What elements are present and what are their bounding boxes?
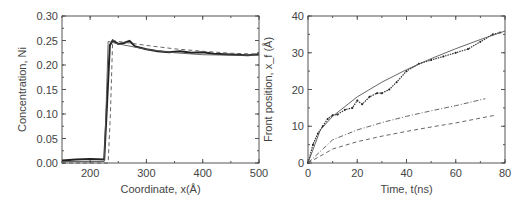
- x-tick-label: 400: [194, 167, 212, 179]
- concentration-profile-chart: 2003004005000.000.050.100.150.200.250.30…: [16, 10, 268, 195]
- y-tick-label: 0.00: [37, 157, 58, 169]
- series-line: [308, 99, 485, 163]
- y-tick-label: 0.15: [37, 84, 58, 96]
- series-line: [308, 31, 505, 163]
- series-line: [62, 41, 259, 164]
- plot-frame: [308, 16, 505, 163]
- x-axis-label: Time, t(ns): [380, 183, 432, 195]
- y-tick-label: 10: [292, 120, 304, 132]
- y-axis-label: Concentration, Ni: [16, 47, 28, 132]
- y-tick-label: 0.20: [37, 59, 58, 71]
- series-line: [308, 33, 500, 163]
- y-tick-label: 30: [292, 47, 304, 59]
- y-tick-label: 40: [292, 10, 304, 22]
- x-tick-label: 300: [137, 167, 155, 179]
- plot-frame: [62, 16, 259, 163]
- y-tick-label: 0.05: [37, 133, 58, 145]
- x-tick-label: 20: [351, 167, 363, 179]
- y-tick-label: 0.25: [37, 35, 58, 47]
- series-line: [62, 41, 259, 161]
- y-tick-label: 0.10: [37, 108, 58, 120]
- y-tick-label: 20: [292, 84, 304, 96]
- series-line: [308, 115, 495, 163]
- x-tick-label: 200: [81, 167, 99, 179]
- x-tick-label: 40: [400, 167, 412, 179]
- y-tick-label: 0: [298, 157, 304, 169]
- figure: 2003004005000.000.050.100.150.200.250.30…: [0, 0, 529, 201]
- x-tick-label: 500: [250, 167, 268, 179]
- series-line: [62, 41, 259, 161]
- x-tick-label: 80: [499, 167, 511, 179]
- x-tick-label: 60: [450, 167, 462, 179]
- x-tick-label: 0: [305, 167, 311, 179]
- y-tick-label: 0.30: [37, 10, 58, 22]
- x-axis-label: Coordinate, x(Å): [120, 183, 200, 195]
- front-position-chart: 020406080010203040Time, t(ns)Front posit…: [262, 10, 511, 195]
- y-axis-label: Front position, x_f (Å): [262, 37, 274, 142]
